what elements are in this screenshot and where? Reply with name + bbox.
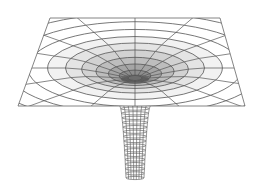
funnel-tube bbox=[119, 102, 151, 179]
gravity-well-diagram bbox=[0, 0, 267, 191]
